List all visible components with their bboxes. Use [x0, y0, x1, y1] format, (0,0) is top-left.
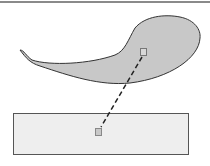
teardrop-handle[interactable]	[141, 49, 147, 56]
diagram-canvas	[0, 0, 210, 166]
rectangle-handle[interactable]	[96, 129, 102, 136]
teardrop-shape[interactable]	[20, 16, 200, 84]
